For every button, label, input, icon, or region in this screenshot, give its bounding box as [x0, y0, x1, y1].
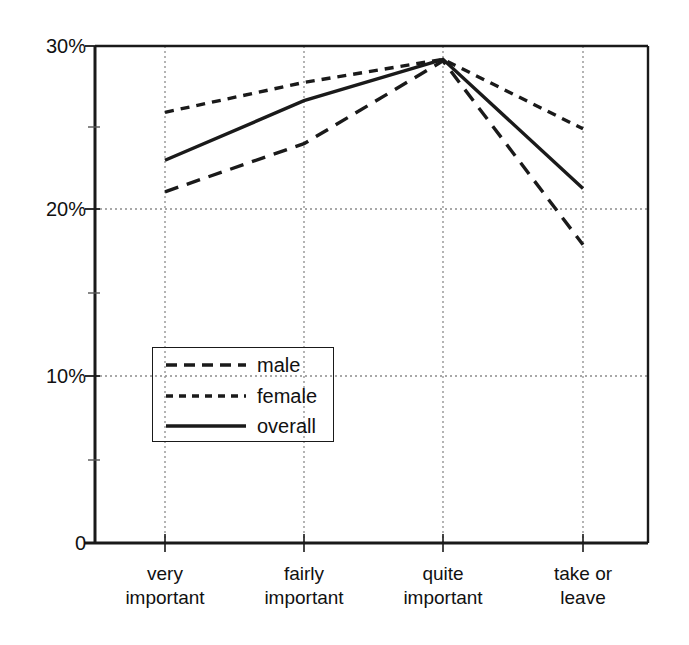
chart-legend: male female overall: [152, 347, 334, 442]
x-axis-label-very-important-line2: important: [85, 586, 245, 610]
legend-label-female: female: [257, 386, 317, 406]
x-axis-label-very-important: very important: [85, 562, 245, 610]
legend-entry-female: female: [153, 381, 333, 411]
y-axis-label-30: 30%: [46, 36, 86, 56]
legend-swatch-female-dotted-line: [165, 390, 247, 402]
legend-swatch-male-dashed-line: [165, 359, 247, 371]
x-axis-label-very-important-line1: very: [85, 562, 245, 586]
legend-entry-male: male: [153, 350, 333, 380]
x-axis-label-take-or-leave-line1: take or: [503, 562, 663, 586]
line-chart-plot: [0, 0, 689, 645]
y-axis-label-10: 10%: [46, 366, 86, 386]
legend-entry-overall: overall: [153, 411, 333, 441]
legend-label-male: male: [257, 355, 300, 375]
chart-container: 30% 20% 10% 0 very important fairly impo…: [0, 0, 689, 645]
x-axis-label-fairly-important: fairly important: [224, 562, 384, 610]
x-axis-label-quite-important-line1: quite: [363, 562, 523, 586]
y-axis-label-20: 20%: [46, 199, 86, 219]
legend-label-overall: overall: [257, 416, 316, 436]
y-axis-label-0: 0: [75, 533, 86, 553]
x-axis-label-quite-important-line2: important: [363, 586, 523, 610]
x-axis-label-take-or-leave: take or leave: [503, 562, 663, 610]
x-axis-label-fairly-important-line1: fairly: [224, 562, 384, 586]
legend-swatch-overall-solid-line: [165, 420, 247, 432]
x-axis-label-quite-important: quite important: [363, 562, 523, 610]
x-axis-label-fairly-important-line2: important: [224, 586, 384, 610]
y-axis-labels: 30% 20% 10% 0: [18, 0, 86, 645]
chart-background: [0, 0, 689, 645]
x-axis-label-take-or-leave-line2: leave: [503, 586, 663, 610]
